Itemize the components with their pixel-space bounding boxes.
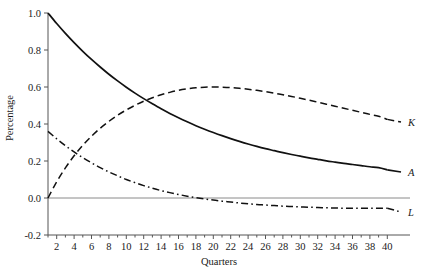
series-label-l: L bbox=[407, 207, 414, 218]
x-tick-label: 20 bbox=[208, 241, 219, 252]
x-tick-label: 40 bbox=[382, 241, 393, 252]
x-tick-label: 26 bbox=[260, 241, 271, 252]
series-connector-l bbox=[387, 208, 401, 212]
x-tick-label: 22 bbox=[225, 241, 236, 252]
y-tick-label: 0.2 bbox=[28, 156, 41, 167]
series-connector-k bbox=[387, 119, 401, 122]
x-tick-label: 14 bbox=[156, 241, 167, 252]
y-axis-tick-labels: 1.00.80.60.40.20.0-0.2 bbox=[24, 8, 41, 241]
y-tick-label: 0.4 bbox=[28, 119, 42, 130]
chart-figure: 1.00.80.60.40.20.0-0.2 24681012141618202… bbox=[0, 0, 423, 271]
x-tick-label: 32 bbox=[312, 241, 323, 252]
x-tick-label: 38 bbox=[365, 241, 376, 252]
x-tick-label: 16 bbox=[173, 241, 184, 252]
data-series-group bbox=[48, 13, 401, 212]
series-label-k: K bbox=[407, 117, 416, 128]
line-chart: 1.00.80.60.40.20.0-0.2 24681012141618202… bbox=[0, 0, 423, 271]
series-label-a: A bbox=[407, 167, 415, 178]
series-line-k bbox=[48, 87, 387, 198]
series-line-a bbox=[48, 13, 387, 170]
x-tick-label: 30 bbox=[295, 241, 306, 252]
x-axis-title: Quarters bbox=[201, 256, 237, 267]
y-axis bbox=[44, 13, 48, 235]
series-line-l bbox=[48, 131, 387, 208]
x-tick-label: 12 bbox=[138, 241, 149, 252]
x-tick-label: 28 bbox=[278, 241, 289, 252]
x-tick-label: 34 bbox=[330, 241, 341, 252]
x-tick-label: 6 bbox=[89, 241, 94, 252]
x-tick-label: 18 bbox=[191, 241, 202, 252]
x-tick-label: 8 bbox=[106, 241, 111, 252]
x-axis-tick-labels: 246810121416182022242628303234363840 bbox=[54, 241, 392, 252]
series-connector-a bbox=[387, 170, 401, 172]
y-tick-label: 0.0 bbox=[28, 193, 41, 204]
x-axis bbox=[48, 235, 410, 239]
y-axis-title: Percentage bbox=[4, 95, 15, 141]
x-tick-label: 2 bbox=[54, 241, 59, 252]
y-tick-label: 0.8 bbox=[28, 45, 41, 56]
series-end-labels: AKL bbox=[407, 117, 416, 218]
y-tick-label: 1.0 bbox=[28, 8, 41, 19]
x-tick-label: 24 bbox=[243, 241, 254, 252]
x-tick-label: 10 bbox=[121, 241, 132, 252]
y-tick-label: -0.2 bbox=[24, 230, 41, 241]
x-tick-label: 4 bbox=[71, 241, 77, 252]
x-tick-label: 36 bbox=[347, 241, 358, 252]
y-tick-label: 0.6 bbox=[28, 82, 41, 93]
